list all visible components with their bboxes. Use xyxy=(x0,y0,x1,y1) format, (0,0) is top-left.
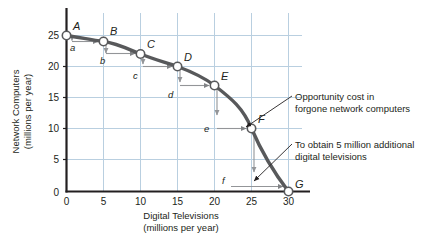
segment-label-d: d xyxy=(168,89,174,100)
annotation-opportunity-cost-line2: forgone network computers xyxy=(295,103,410,114)
annotation-leader-lines xyxy=(246,96,292,181)
y-tick-5: 5 xyxy=(53,154,59,165)
point-marker-A[interactable] xyxy=(62,31,70,39)
point-label-C: C xyxy=(147,38,155,50)
point-marker-G[interactable] xyxy=(284,187,292,195)
y-axis-title: Network Computers(millions per year) xyxy=(10,47,33,177)
x-tick-30: 30 xyxy=(283,196,295,207)
x-tick-5: 5 xyxy=(101,196,107,207)
x-axis-title-line1: Digital Televisions xyxy=(143,210,218,221)
annotation-opportunity-cost-line1: Opportunity cost in xyxy=(295,91,374,102)
point-marker-C[interactable] xyxy=(136,50,144,58)
annotation-opportunity-cost: Opportunity cost inforgone network compu… xyxy=(295,91,410,115)
segment-label-a: a xyxy=(70,42,75,53)
segment-label-e: e xyxy=(204,123,209,134)
x-tick-25: 25 xyxy=(246,196,258,207)
point-label-G: G xyxy=(295,178,304,190)
point-label-E: E xyxy=(221,70,229,82)
x-tick-15: 15 xyxy=(172,196,184,207)
segment-labels: a b c d e f xyxy=(70,42,226,186)
annotation-additional-televisions-line1: To obtain 5 million additional xyxy=(295,139,414,150)
point-label-B: B xyxy=(110,25,117,37)
y-axis-title-line1: Network Computers xyxy=(10,70,21,154)
y-tick-0: 0 xyxy=(53,187,59,198)
segment-label-c: c xyxy=(133,70,138,81)
x-tick-0: 0 xyxy=(64,196,70,207)
point-marker-E[interactable] xyxy=(210,81,218,89)
x-tick-20: 20 xyxy=(209,196,221,207)
x-tick-labels: 0 5 10 15 20 25 30 xyxy=(64,196,295,207)
x-axis-title: Digital Televisions(millions per year) xyxy=(96,210,266,233)
segment-label-b: b xyxy=(100,55,105,66)
point-marker-D[interactable] xyxy=(173,62,181,70)
x-axis-title-line2: (millions per year) xyxy=(143,222,219,233)
ppf-chart-figure: 25 20 15 10 5 0 0 5 10 15 20 25 30 xyxy=(0,0,442,248)
y-tick-25: 25 xyxy=(48,30,60,41)
y-tick-20: 20 xyxy=(48,61,60,72)
annotation-additional-televisions: To obtain 5 million additionaldigital te… xyxy=(295,139,414,163)
y-axis-title-line2: (millions per year) xyxy=(21,74,32,150)
y-tick-labels: 25 20 15 10 5 0 xyxy=(48,30,60,198)
segment-label-f: f xyxy=(222,175,226,186)
y-tick-15: 15 xyxy=(48,92,60,103)
x-tick-10: 10 xyxy=(135,196,147,207)
y-tick-10: 10 xyxy=(48,123,60,134)
point-label-A: A xyxy=(72,20,80,32)
point-marker-B[interactable] xyxy=(99,37,107,45)
point-label-D: D xyxy=(184,51,192,63)
vertical-gridlines xyxy=(104,13,289,192)
annotation-additional-televisions-line2: digital televisions xyxy=(295,151,367,162)
